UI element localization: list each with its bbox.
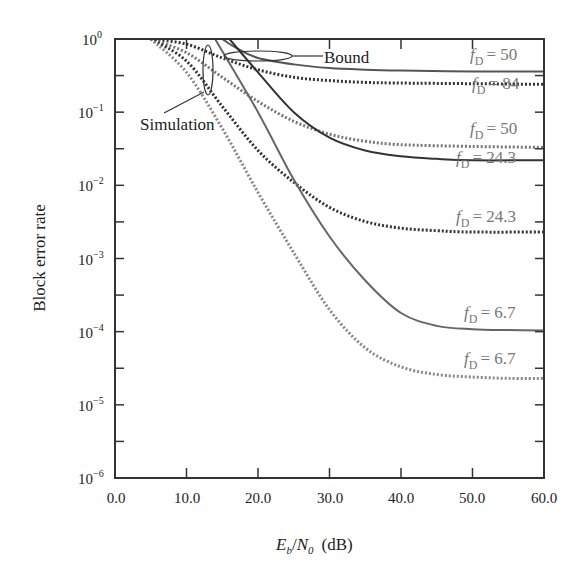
- y-axis-title: Block error rate: [30, 204, 49, 312]
- curve-label-sim-84: fD= 84: [472, 74, 520, 97]
- x-tick-label: 50.0: [459, 490, 485, 506]
- simulation-annotation: Simulation: [140, 115, 215, 134]
- x-tick-label: 0.0: [107, 490, 126, 506]
- bound-annotation: Bound: [324, 48, 370, 67]
- x-tick-labels: 0.0 10.0 20.0 30.0 40.0 50.0 60.0: [107, 490, 558, 506]
- y-tick-label: 10−6: [78, 468, 104, 487]
- y-tick-label: 10−3: [78, 249, 104, 268]
- x-tick-label: 60.0: [531, 490, 557, 506]
- y-tick-label: 10−2: [78, 175, 104, 194]
- y-tick-labels: 100 10−1 10−2 10−3 10−4 10−5 10−6: [78, 29, 104, 487]
- x-tick-label: 10.0: [174, 490, 200, 506]
- curve-labels: fD= 50 fD= 84 fD= 50 fD= 24.3 fD= 24.3 f…: [456, 45, 520, 372]
- x-tick-label: 20.0: [245, 490, 271, 506]
- curve-label-sim-24-3: fD= 24.3: [456, 207, 516, 230]
- curve-label-sim-6-7: fD= 6.7: [464, 349, 516, 372]
- curve-label-bound-6-7: fD= 6.7: [464, 303, 516, 326]
- x-tick-label: 30.0: [317, 490, 343, 506]
- simulation-leader-line: [164, 92, 204, 113]
- curve-label-sim-50: fD= 50: [470, 119, 517, 142]
- y-tick-label: 10−4: [78, 322, 104, 341]
- x-axis-title: Eb/N0(dB): [275, 535, 353, 556]
- bound-ellipse: [224, 51, 292, 61]
- y-tick-label: 100: [82, 29, 102, 48]
- curve-label-bound-24-3: fD= 24.3: [456, 148, 516, 171]
- curve-label-bound-50: fD= 50: [470, 45, 517, 68]
- series-line-4: [151, 39, 544, 232]
- y-tick-label: 10−5: [78, 395, 104, 414]
- block-error-rate-chart: 100 10−1 10−2 10−3 10−4 10−5 10−6 0.0 10…: [0, 0, 588, 581]
- x-tick-label: 40.0: [388, 490, 414, 506]
- y-tick-label: 10−1: [78, 102, 104, 121]
